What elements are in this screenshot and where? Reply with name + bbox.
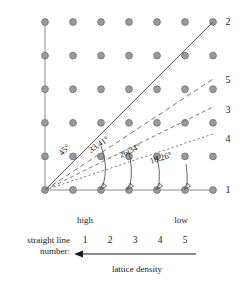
legend-number-5: 5: [183, 235, 188, 245]
legend-number-1: 1: [83, 235, 88, 245]
angle-arcs: [100, 146, 191, 190]
legend-density-label: lattice density: [112, 264, 163, 274]
legend: high low straight line number: 1 2 3 4 5…: [27, 215, 196, 274]
density-arrow-head: [74, 251, 83, 258]
line-number-1: 1: [226, 184, 231, 195]
legend-number-4: 4: [158, 235, 163, 245]
ray-line-2-45deg: [45, 22, 213, 190]
line-number-4: 4: [226, 133, 231, 144]
legend-number-3: 3: [133, 235, 138, 245]
ray-line-4-18deg: [45, 134, 213, 190]
legend-row-title-line2: number:: [40, 246, 70, 256]
line-number-3: 3: [226, 104, 231, 115]
lattice-angle-figure: 2 5 3 4 1 45° 33.41° 26.34° 18.26° high …: [0, 0, 244, 285]
ray-line-5-33deg: [45, 79, 213, 190]
legend-number-2: 2: [108, 235, 113, 245]
line-number-2: 2: [226, 16, 231, 27]
legend-row-title-line1: straight line: [27, 235, 70, 245]
line-number-5: 5: [226, 74, 231, 85]
angle-label-18-26: 18.26°: [149, 149, 174, 165]
legend-high-label: high: [77, 215, 94, 225]
legend-low-label: low: [174, 215, 188, 225]
